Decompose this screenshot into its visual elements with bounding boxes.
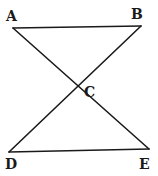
label-point-c: C — [84, 84, 95, 100]
label-point-d: D — [5, 156, 17, 172]
segment-bd — [9, 26, 141, 152]
label-point-b: B — [131, 6, 143, 22]
label-point-e: E — [139, 156, 150, 172]
geometry-diagram: A B C D E — [0, 0, 158, 176]
segment-ae — [13, 28, 149, 149]
segment-de — [9, 149, 149, 152]
segment-ab — [13, 26, 141, 28]
label-point-a: A — [5, 8, 18, 24]
